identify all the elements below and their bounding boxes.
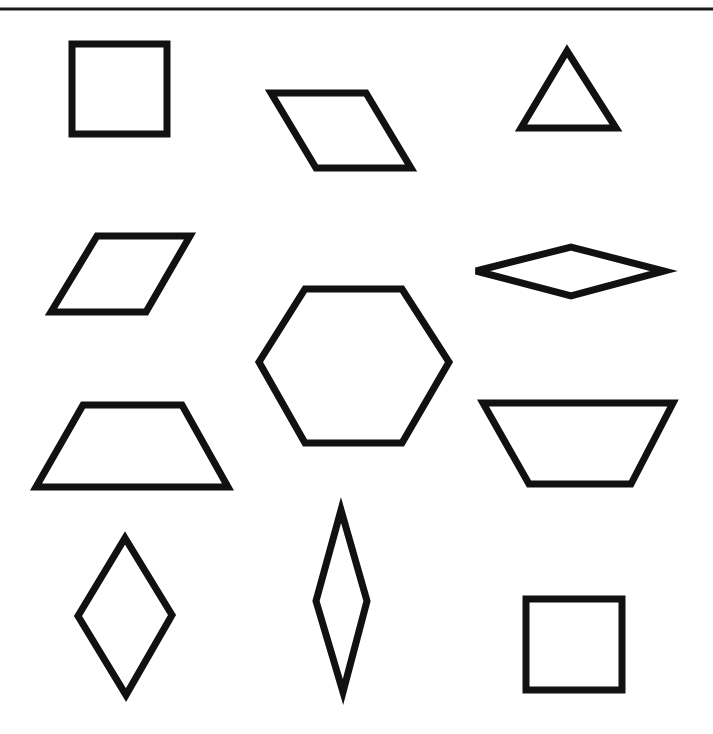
hexagon-center-shape xyxy=(259,289,449,443)
pattern-blocks-diagram xyxy=(0,0,713,734)
rhombus-tilted-top-shape xyxy=(271,93,411,168)
thin-rhombus-vertical-shape xyxy=(316,510,367,692)
square-bottom-right-shape xyxy=(526,599,622,690)
trapezoid-right-inverted-shape xyxy=(483,403,673,484)
square-top-left-shape xyxy=(72,44,167,134)
rhombus-vertical-left-shape xyxy=(78,538,172,695)
triangle-top-right-shape xyxy=(521,51,616,128)
rhombus-left-shape xyxy=(51,236,190,312)
trapezoid-left-shape xyxy=(36,405,228,487)
shapes-group xyxy=(36,44,673,695)
thin-rhombus-horizontal-shape xyxy=(476,247,664,296)
